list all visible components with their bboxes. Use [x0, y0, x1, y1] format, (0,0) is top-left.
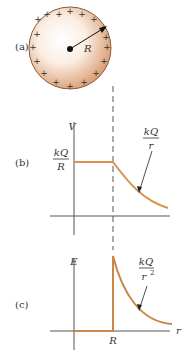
outside-annotation-den-c: r [142, 271, 148, 282]
svg-text:+: + [92, 68, 100, 78]
svg-text:+: + [78, 9, 86, 19]
outside-annotation-num-c: kQ [139, 256, 153, 267]
svg-text:+: + [29, 42, 37, 52]
potential-curve [74, 162, 168, 208]
potential-graph [50, 122, 170, 235]
inside-value-den: R [56, 161, 65, 172]
annotation-arrow-c [140, 286, 147, 307]
inside-value-num: kQ [54, 147, 68, 158]
svg-text:+: + [33, 56, 41, 66]
v-axis-label: V [68, 121, 77, 132]
annotation-arrow-b [140, 151, 152, 189]
svg-text:+: + [33, 29, 41, 39]
svg-text:+: + [55, 9, 63, 19]
r-tick-label: R [108, 335, 117, 346]
svg-text:+: + [34, 14, 42, 24]
outside-annotation-num-b: kQ [144, 126, 158, 137]
svg-text:+: + [102, 32, 110, 42]
outside-annotation-exp-c: 2 [150, 269, 154, 277]
svg-text:+: + [66, 81, 74, 91]
svg-text:+: + [43, 9, 51, 19]
svg-text:+: + [90, 14, 98, 24]
svg-text:+: + [52, 77, 60, 87]
charged-sphere: +++ ++ ++ +++ +++ +++ ++ [29, 6, 111, 91]
svg-text:+: + [66, 6, 74, 16]
r-axis-label: r [176, 325, 182, 336]
panel-a-label: (a) [15, 41, 29, 52]
radius-label: R [83, 43, 92, 54]
panel-c-label: (c) [15, 299, 29, 310]
field-curve [74, 256, 172, 331]
diagram-canvas: +++ ++ ++ +++ +++ +++ ++ (a) R V (b) kQ … [0, 0, 184, 363]
outside-annotation-den-b: r [149, 140, 155, 151]
svg-text:+: + [103, 42, 111, 52]
svg-text:+: + [40, 68, 48, 78]
e-axis-label: E [69, 256, 78, 267]
svg-text:+: + [80, 77, 88, 87]
svg-text:+: + [100, 56, 108, 66]
panel-b-label: (b) [15, 157, 29, 168]
